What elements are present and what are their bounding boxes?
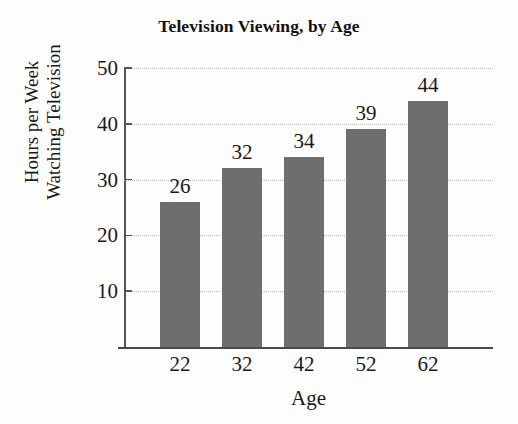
y-axis-title-line-1: Hours per Week (21, 2, 43, 242)
x-axis-tick-label: 42 (273, 354, 335, 375)
y-axis-tick (124, 235, 132, 237)
x-axis-line (118, 347, 493, 349)
plot-area: 2632343944 (124, 68, 493, 347)
y-axis-line (124, 68, 126, 347)
y-axis-title-line-2: Watching Television (43, 2, 65, 242)
bar[interactable] (346, 129, 386, 347)
y-axis-tick-label: 10 (78, 281, 118, 302)
chart-figure: Television Viewing, by Age 1020304050 Ho… (0, 0, 518, 424)
x-axis-tick-label: 52 (335, 354, 397, 375)
y-axis-tick-label: 50 (78, 58, 118, 79)
bar[interactable] (284, 157, 324, 347)
x-axis-tick-label: 62 (397, 354, 459, 375)
y-axis-tick (124, 179, 132, 181)
y-axis-tick-label: 20 (78, 225, 118, 246)
y-axis-tick-label: 30 (78, 170, 118, 191)
bar[interactable] (408, 101, 448, 347)
x-axis-tick-label: 22 (149, 354, 211, 375)
bar-value-label: 32 (211, 142, 273, 163)
bar-value-label: 26 (149, 176, 211, 197)
bar-value-label: 34 (273, 131, 335, 152)
y-axis-tick (124, 290, 132, 292)
bar-value-label: 44 (397, 75, 459, 96)
y-axis-tick (124, 123, 132, 125)
bar[interactable] (160, 202, 200, 347)
bar-value-label: 39 (335, 103, 397, 124)
x-axis-tick-label: 32 (211, 354, 273, 375)
x-axis-title: Age (124, 386, 493, 411)
y-axis-tick-labels: 1020304050 (76, 68, 118, 347)
y-axis-tick-label: 40 (78, 114, 118, 135)
gridline (124, 68, 493, 69)
y-axis-title: Hours per Week Watching Television (21, 2, 81, 242)
bar[interactable] (222, 168, 262, 347)
y-axis-tick (124, 67, 132, 69)
